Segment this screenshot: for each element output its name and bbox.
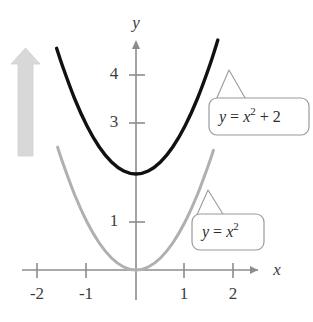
- x-axis-label: x: [272, 260, 281, 279]
- x-tick-label-2: 2: [229, 284, 238, 303]
- y-tick-label-3: 3: [110, 112, 119, 131]
- vertical-shift-arrow: [11, 48, 40, 156]
- y-tick-label-4: 4: [110, 64, 119, 83]
- callout-lower-exponent: 2: [233, 220, 239, 232]
- x-tick-label-1: 1: [180, 284, 189, 303]
- x-tick-label--1: -1: [79, 284, 93, 303]
- curve-y-equals-x-squared-plus-2: [57, 40, 218, 174]
- callout-upper-base: x: [242, 108, 250, 125]
- callout-lower: y = x2: [192, 190, 264, 250]
- callout-upper-tail: + 2: [256, 108, 281, 125]
- callout-lower-label: y = x2: [200, 220, 239, 241]
- x-tick-label--2: -2: [30, 284, 44, 303]
- y-axis-arrowhead: [132, 40, 140, 49]
- callout-upper-label: y = x2 + 2: [217, 105, 281, 126]
- y-tick-label-1: 1: [110, 211, 119, 230]
- coordinate-plane-svg: -2 -1 1 2 x 4 3 1 y y = x2 + 2: [0, 0, 313, 322]
- arrow-shape: [11, 48, 40, 156]
- callout-upper: y = x2 + 2: [209, 70, 309, 135]
- callout-lower-eq: =: [209, 223, 226, 240]
- y-axis-label: y: [130, 13, 140, 32]
- graph-figure: -2 -1 1 2 x 4 3 1 y y = x2 + 2: [0, 0, 313, 322]
- callout-lower-base: x: [225, 223, 233, 240]
- callout-upper-eq: =: [226, 108, 243, 125]
- x-axis-arrowhead: [250, 266, 258, 274]
- y-axis: 4 3 1 y: [110, 13, 145, 300]
